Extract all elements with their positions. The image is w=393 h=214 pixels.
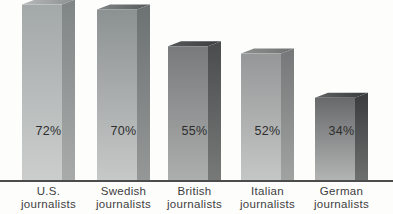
category-label: U.S. (37, 185, 61, 197)
bar-front-face (315, 98, 355, 181)
bar-value-label: 72% (36, 124, 62, 138)
bar-group: 55% (168, 41, 221, 181)
category-label: journalists (239, 198, 295, 210)
category-label: Italian (251, 185, 284, 197)
bar-side-face (208, 41, 221, 181)
bar-side-face (355, 93, 368, 181)
bar-group: 70% (97, 5, 150, 182)
bar-group: 52% (241, 49, 294, 181)
category-label: journalists (20, 198, 76, 210)
chart-canvas: 72%70%55%52%34%U.S.journalistsSwedishjou… (0, 0, 393, 214)
category-label: journalists (313, 198, 369, 210)
bar-value-label: 52% (255, 124, 281, 138)
bar-side-face (62, 0, 75, 181)
bar-value-label: 55% (182, 124, 208, 138)
bar-value-label: 70% (111, 124, 137, 138)
category-label: German (320, 185, 363, 197)
category-label: Swedish (101, 185, 147, 197)
bar-side-face (137, 5, 150, 182)
bar-group: 34% (315, 93, 368, 181)
bar-group: 72% (22, 0, 75, 181)
bar-front-face (22, 5, 62, 181)
bar-value-label: 34% (329, 124, 355, 138)
bar-front-face (241, 54, 281, 181)
bar-front-face (97, 10, 137, 182)
bar-front-face (168, 46, 208, 181)
category-label: British (177, 185, 211, 197)
category-label: journalists (166, 198, 222, 210)
journalists-bar-chart-figure: 72%70%55%52%34%U.S.journalistsSwedishjou… (0, 0, 393, 214)
category-label: journalists (95, 198, 151, 210)
bar-side-face (281, 49, 294, 181)
